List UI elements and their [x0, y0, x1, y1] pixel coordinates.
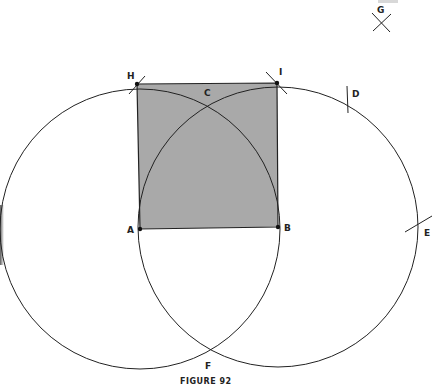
label-i: I [279, 67, 282, 77]
label-h: H [127, 71, 135, 81]
tick-d [347, 86, 348, 113]
point-a [138, 227, 142, 231]
label-b: B [284, 223, 291, 233]
point-h [135, 82, 139, 86]
label-f: F [205, 361, 211, 371]
shaded-square [137, 83, 278, 229]
point-b [276, 225, 280, 229]
label-g: G [377, 5, 384, 15]
label-d: D [352, 89, 359, 99]
label-e: E [424, 228, 430, 238]
geometry-figure: G H I C D A B E F FIGURE 92 [0, 0, 440, 388]
point-i [275, 81, 279, 85]
figure-caption: FIGURE 92 [180, 377, 232, 386]
label-c: C [204, 88, 211, 98]
label-a: A [127, 225, 134, 235]
